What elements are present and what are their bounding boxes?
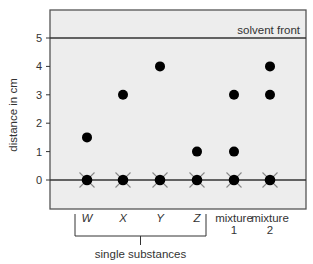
- data-spot: [192, 147, 202, 157]
- data-spot: [229, 90, 239, 100]
- x-axis-labels: WXYZmixture1mixture2: [82, 212, 289, 236]
- baseline-spot: [153, 173, 168, 188]
- data-spot: [265, 90, 275, 100]
- x-category-label: Y: [156, 212, 165, 224]
- x-category-label: mixture: [251, 212, 289, 224]
- spot-dot: [82, 175, 93, 186]
- y-axis: 012345: [36, 32, 50, 186]
- y-tick-label: 2: [36, 117, 42, 129]
- x-category-label: 2: [267, 224, 273, 236]
- baseline-spot: [80, 173, 95, 188]
- spot-dot: [155, 175, 166, 186]
- data-spot: [82, 132, 92, 142]
- baseline-spot: [263, 173, 278, 188]
- y-tick-label: 4: [36, 60, 42, 72]
- spot-dot: [118, 175, 129, 186]
- y-axis-label: distance in cm: [7, 78, 19, 152]
- x-category-label: 1: [231, 224, 237, 236]
- spot-dot: [229, 175, 240, 186]
- single-substances-bracket: single substances: [75, 214, 206, 260]
- x-category-label: W: [82, 212, 94, 224]
- bracket-label: single substances: [95, 248, 187, 260]
- y-tick-label: 3: [36, 89, 42, 101]
- spot-dot: [192, 175, 203, 186]
- y-tick-label: 5: [36, 32, 42, 44]
- data-spot: [265, 61, 275, 71]
- x-category-label: Z: [192, 212, 201, 224]
- data-spot: [155, 61, 165, 71]
- solvent-front-label: solvent front: [237, 24, 300, 36]
- baseline-spot: [190, 173, 205, 188]
- data-spot: [118, 90, 128, 100]
- chromatogram-chart: 012345 WXYZmixture1mixture2 single subst…: [0, 0, 313, 264]
- y-tick-label: 0: [36, 174, 42, 186]
- data-spot: [229, 147, 239, 157]
- y-tick-label: 1: [36, 146, 42, 158]
- x-category-label: mixture: [215, 212, 253, 224]
- x-category-label: X: [118, 212, 128, 224]
- spot-dot: [265, 175, 276, 186]
- bracket-line: [75, 214, 206, 236]
- baseline-spot: [116, 173, 131, 188]
- baseline-spot: [227, 173, 242, 188]
